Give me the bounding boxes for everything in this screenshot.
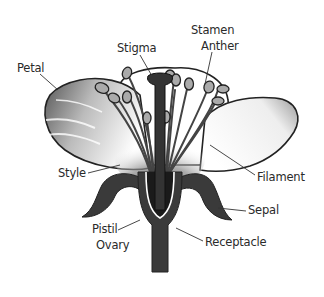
right-petal (200, 98, 298, 172)
label-pistil: Pistil (92, 224, 118, 236)
label-ovary: Ovary (96, 240, 129, 252)
label-stamen: Stamen (191, 25, 234, 37)
label-stigma: Stigma (117, 43, 156, 55)
label-filament: Filament (257, 172, 305, 184)
label-receptacle: Receptacle (205, 237, 266, 249)
right-sepal (175, 174, 232, 220)
left-sepal (82, 174, 145, 217)
label-anther: Anther (201, 41, 239, 53)
flower-diagram (0, 0, 324, 297)
label-style: Style (58, 168, 86, 180)
label-sepal: Sepal (248, 205, 279, 217)
label-petal: Petal (17, 63, 44, 75)
